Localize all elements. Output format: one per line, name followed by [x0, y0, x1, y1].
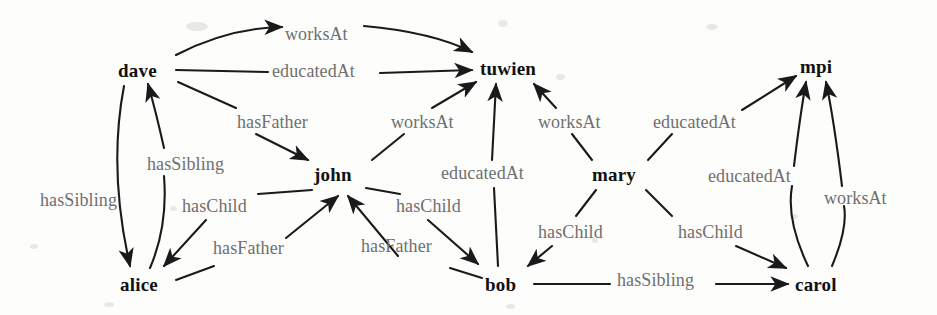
edge-mary-worksAt-tuwien-b [534, 84, 556, 108]
node-dave[interactable]: dave [118, 60, 157, 82]
edge-john-hasChild-alice [258, 190, 312, 194]
edge-dave-hasFather-john [178, 82, 236, 108]
edge-mary-hasChild-bob [576, 190, 596, 216]
edge-carol-educatedAt-mpi-b [794, 82, 806, 166]
edge-label-john-worksAt-tuwien: worksAt [391, 112, 454, 133]
edge-label-mary-hasChild-carol: hasChild [678, 222, 743, 243]
edge-john-hasChild-bob-b [428, 220, 478, 264]
edge-label-dave-hasSibling-alice: hasSibling [147, 154, 224, 175]
edge-label-dave-hasFather-john: hasFather [237, 112, 308, 133]
edge-label-alice-hasFather-john: hasFather [213, 238, 284, 259]
graph-canvas: dave tuwien mpi john mary alice bob caro… [0, 0, 937, 315]
edge-mary-educatedAt-mpi [648, 134, 672, 160]
edge-label-mary-hasChild-bob: hasChild [538, 222, 603, 243]
edge-mary-hasChild-bob-b [528, 246, 552, 266]
node-mary[interactable]: mary [592, 164, 636, 186]
node-alice[interactable]: alice [120, 274, 158, 296]
edge-bob-educatedAt-tuwien [494, 188, 498, 266]
edge-layer [0, 0, 937, 315]
edge-label-mary-worksAt-tuwien: worksAt [538, 112, 601, 133]
edge-label-dave-educatedAt-tuwien: educatedAt [272, 61, 355, 82]
edge-label-john-hasChild-alice: hasChild [182, 196, 247, 217]
edge-alice-hasFather-john [176, 266, 214, 280]
edge-label-bob-hasSibling-carol: hasSibling [617, 270, 694, 291]
edge-carol-worksAt-mpi-b [826, 82, 842, 186]
node-carol[interactable]: carol [795, 274, 837, 296]
edge-dave-hasSibling-alice [117, 86, 130, 266]
node-bob[interactable]: bob [485, 274, 516, 296]
edge-dave-hasFather-john-b [256, 134, 308, 160]
edge-label-bob-educatedAt-tuwien: educatedAt [441, 163, 524, 184]
edge-john-worksAt-tuwien-b [432, 82, 476, 108]
edge-john-worksAt-tuwien [372, 134, 404, 160]
edge-carol-worksAt-mpi [832, 206, 845, 266]
edge-label-dave-worksAt-tuwien: worksAt [285, 24, 348, 45]
edge-bob-educatedAt-tuwien-b [492, 84, 496, 160]
edge-mary-educatedAt-mpi-b [742, 76, 796, 110]
node-john[interactable]: john [314, 164, 352, 186]
edge-alice-hasSibling-dave-b [148, 84, 164, 148]
node-tuwien[interactable]: tuwien [480, 58, 536, 80]
edge-label-mary-educatedAt-mpi: educatedAt [653, 112, 736, 133]
edge-label-john-hasChild-bob: hasChild [396, 196, 461, 217]
edge-bob-hasFather-john [450, 268, 482, 278]
edge-john-hasChild-alice-b [164, 220, 206, 266]
edge-alice-hasFather-john-b [286, 196, 338, 238]
edge-dave-worksAt-tuwien [176, 27, 282, 55]
edge-dave-worksAt-tuwien-b [364, 26, 472, 52]
edge-label-carol-worksAt-mpi: worksAt [824, 188, 887, 209]
edge-label-carol-educatedAt-mpi: educatedAt [708, 166, 791, 187]
node-mpi[interactable]: mpi [800, 56, 832, 78]
edge-dave-educatedAt-tuwien-b [380, 70, 472, 73]
edge-carol-educatedAt-mpi [791, 186, 808, 266]
edge-label-alice-hasSibling-dave: hasSibling [40, 190, 117, 211]
edge-mary-hasChild-carol-b [736, 246, 786, 268]
edge-dave-educatedAt-tuwien [176, 70, 268, 72]
edge-mary-worksAt-tuwien [572, 134, 592, 160]
edge-mary-hasChild-carol [646, 190, 672, 216]
edge-label-bob-hasFather-john: hasFather [361, 236, 432, 257]
edge-john-hasChild-bob [366, 188, 400, 194]
edge-alice-hasSibling-dave [150, 176, 165, 268]
